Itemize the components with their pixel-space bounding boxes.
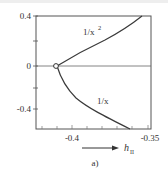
svg-text:II: II (130, 149, 134, 155)
curve-inv-x (57, 66, 130, 129)
svg-text:h: h (124, 142, 129, 153)
y-tick-label-0-4: 0.4 (20, 11, 32, 21)
critical-point-marker (54, 64, 59, 69)
y-tick-label-0: 0 (27, 61, 32, 71)
y-tick-label-neg-0-4: -0.4 (17, 104, 32, 114)
label-inv-x-squared: 1/x 2 (83, 24, 101, 37)
arrow-right-icon (112, 146, 119, 151)
panel-label: a) (92, 158, 99, 168)
svg-text:1/x: 1/x (83, 27, 95, 37)
chart: 0.4 0 -0.4 -0.4 -0.35 1/x 2 1/x h II a) (0, 0, 168, 171)
svg-text:2: 2 (98, 24, 101, 31)
x-ticks (42, 125, 148, 129)
x-tick-label-neg-0-4: -0.4 (65, 133, 80, 143)
figure: 0.4 0 -0.4 -0.4 -0.35 1/x 2 1/x h II a) (0, 0, 168, 171)
x-axis-label: h II (124, 142, 134, 155)
cropped-caption-strip (0, 0, 168, 3)
label-inv-x: 1/x (97, 96, 109, 106)
x-tick-label-neg-0-35: -0.35 (141, 133, 160, 143)
